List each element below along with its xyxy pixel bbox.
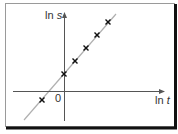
x-axis-label-ln: ln	[155, 94, 167, 106]
y-axis-label-ln: ln	[45, 9, 57, 21]
frame	[6, 4, 178, 129]
y-axis-label-var: s	[57, 9, 63, 21]
frame-border	[6, 4, 175, 127]
ln-s-vs-ln-t-diagram: ln s 0 ln t	[0, 0, 178, 134]
y-axis-label: ln s	[45, 9, 63, 21]
x-axis-label: ln t	[155, 94, 171, 106]
origin-label: 0	[55, 92, 61, 104]
